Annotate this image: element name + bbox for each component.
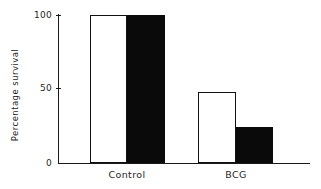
y-axis-label: Percentage survival <box>8 15 22 175</box>
y-axis-line <box>58 14 59 164</box>
y-tick-label-0: 0 <box>26 158 52 168</box>
x-category-label-bcg: BCG <box>198 168 274 182</box>
y-tick-50-wrap: 50 <box>26 83 52 93</box>
x-category-label-control: Control <box>88 168 166 182</box>
bar-control-filled <box>127 15 165 163</box>
y-tick-0-wrap: 0 <box>26 158 52 168</box>
y-tick-label-100: 100 <box>26 10 52 20</box>
bar-bcg-filled <box>236 127 273 163</box>
bar-chart: Percentage survival 100 50 0 Control BCG <box>0 0 321 189</box>
bar-control-open <box>90 15 127 163</box>
y-tick-100-wrap: 100 <box>26 10 52 20</box>
y-tick-label-50: 50 <box>26 83 52 93</box>
bar-bcg-open <box>198 92 236 163</box>
